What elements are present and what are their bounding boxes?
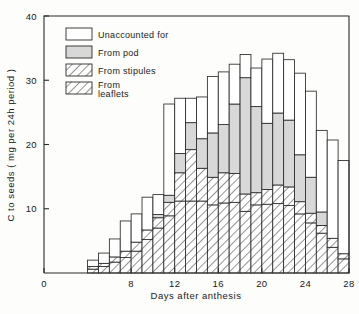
bar-segment-from-stipules: [142, 230, 153, 240]
bar-stack: [240, 55, 251, 273]
legend-swatch-unaccounted-for: [66, 28, 92, 40]
bar-segment-from-stipules: [316, 225, 327, 233]
bar-stack: [186, 98, 197, 273]
x-tick-label: 8: [128, 278, 134, 289]
legend-label: Unaccounted for: [98, 30, 169, 40]
bar-segment-unaccounted-for: [305, 91, 316, 177]
bar-segment-from-pod: [295, 155, 306, 202]
bar-stack: [109, 239, 120, 273]
bar-segment-from-stipules: [175, 173, 186, 201]
bar-stack: [98, 253, 109, 273]
bar-segment-from-leaflets: [316, 233, 327, 273]
bar-segment-from-leaflets: [284, 206, 295, 273]
bar-segment-unaccounted-for: [273, 53, 284, 113]
bar-segment-unaccounted-for: [131, 214, 142, 242]
bar-segment-unaccounted-for: [88, 260, 99, 266]
y-tick-label: 10: [26, 203, 37, 214]
bar-segment-from-leaflets: [131, 251, 142, 273]
bar-segment-from-leaflets: [207, 205, 218, 273]
bar-segment-from-pod: [207, 133, 218, 177]
bar-segment-from-leaflets: [175, 201, 186, 273]
bar-stack: [262, 59, 273, 273]
bar-segment-from-stipules: [120, 251, 131, 257]
x-tick-label: 16: [213, 278, 224, 289]
bar-segment-from-stipules: [284, 187, 295, 206]
bar-stack: [338, 161, 349, 273]
bar-segment-from-pod: [153, 215, 164, 218]
bar-series-group: [88, 53, 349, 273]
bar-segment-from-leaflets: [251, 205, 262, 273]
y-axis-title: C to seeds ( mg per 24h period ): [5, 69, 16, 222]
bar-segment-from-pod: [229, 104, 240, 173]
x-tick-label: 20: [256, 278, 267, 289]
bar-segment-unaccounted-for: [316, 130, 327, 212]
legend-swatch-from-pod: [66, 46, 92, 58]
bar-stack: [218, 72, 229, 273]
bar-segment-from-stipules: [218, 173, 229, 203]
bar-segment-unaccounted-for: [120, 221, 131, 251]
bar-segment-from-leaflets: [153, 228, 164, 273]
bar-segment-unaccounted-for: [109, 239, 120, 257]
bar-stack: [207, 76, 218, 273]
x-tick-label: 0: [41, 278, 47, 289]
bar-stack: [229, 64, 240, 273]
legend-label: From stipules: [98, 66, 156, 76]
legend-swatch-from: [66, 82, 92, 94]
bar-segment-from-leaflets: [273, 204, 284, 273]
bar-segment-unaccounted-for: [295, 73, 306, 155]
bar-segment-unaccounted-for: [98, 253, 109, 263]
bar-segment-unaccounted-for: [284, 60, 295, 120]
bar-segment-from-pod: [240, 78, 251, 194]
bar-segment-unaccounted-for: [327, 140, 338, 238]
bar-segment-unaccounted-for: [218, 72, 229, 125]
bar-segment-from-pod: [186, 123, 197, 150]
bar-stack: [251, 68, 262, 273]
bar-segment-from-pod: [251, 107, 262, 193]
bar-segment-from-stipules: [251, 193, 262, 205]
bar-stack: [273, 53, 284, 273]
x-axis-title: Days after anthesis: [151, 290, 242, 301]
legend-label-line2: leaflets: [98, 89, 129, 99]
bar-segment-from-stipules: [295, 202, 306, 214]
bar-stack: [153, 195, 164, 273]
bar-segment-from-leaflets: [142, 240, 153, 273]
bar-segment-unaccounted-for: [229, 64, 240, 104]
bar-stack: [131, 214, 142, 273]
x-tick-label: 12: [169, 278, 180, 289]
bar-segment-from-stipules: [186, 150, 197, 201]
bar-segment-unaccounted-for: [153, 195, 164, 215]
bar-segment-from-stipules: [197, 168, 208, 201]
bar-segment-from-leaflets: [197, 201, 208, 273]
bar-segment-from-pod: [273, 113, 284, 185]
legend-label: From pod: [98, 48, 139, 58]
bar-segment-from-stipules: [98, 263, 109, 266]
bar-segment-from-pod: [305, 177, 316, 213]
bar-segment-from-pod: [175, 154, 186, 173]
bar-stack: [142, 197, 153, 273]
bar-segment-from-pod: [284, 120, 295, 187]
bar-segment-from-pod: [164, 195, 175, 202]
bar-segment-from-pod: [316, 212, 327, 225]
bar-segment-from-stipules: [109, 257, 120, 262]
y-tick-label: 30: [26, 75, 37, 86]
legend-swatch-from-stipules: [66, 64, 92, 76]
bar-segment-from-leaflets: [262, 204, 273, 273]
x-tick-label: 28: [343, 278, 354, 289]
bar-segment-from-leaflets: [120, 258, 131, 273]
bar-segment-from-leaflets: [327, 247, 338, 273]
bar-stack: [164, 104, 175, 273]
chart-legend: Unaccounted forFrom podFrom stipulesFrom…: [66, 28, 169, 99]
bar-segment-from-pod: [218, 125, 229, 173]
bar-segment-from-leaflets: [164, 216, 175, 273]
bar-stack: [295, 73, 306, 273]
bar-segment-unaccounted-for: [197, 97, 208, 139]
y-tick-label: 20: [26, 139, 37, 150]
bar-segment-from-pod: [197, 139, 208, 169]
bar-stack: [175, 98, 186, 273]
bar-segment-unaccounted-for: [251, 68, 262, 107]
bar-segment-from-stipules: [153, 218, 164, 228]
bar-segment-from-stipules: [305, 213, 316, 223]
bar-stack: [316, 130, 327, 273]
bar-segment-from-leaflets: [88, 269, 99, 273]
bar-segment-from-leaflets: [98, 267, 109, 273]
